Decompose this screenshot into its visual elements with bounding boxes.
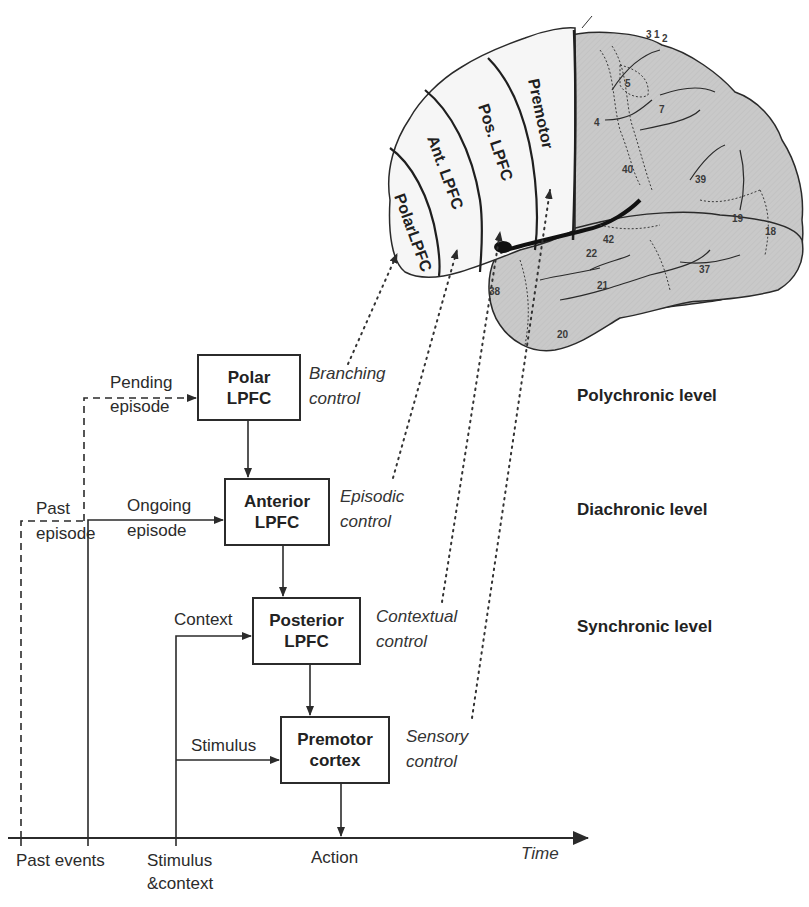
synchronic-level-label: Synchronic level — [577, 617, 712, 637]
diagram-graphics: PolarLPFC Ant. LPFC Pos. LPFC Premotor 3… — [0, 0, 809, 907]
ongoing-episode-line1: Ongoing — [127, 496, 191, 516]
posterior-lpfc-line2: LPFC — [284, 631, 328, 652]
cascade-model-figure: PolarLPFC Ant. LPFC Pos. LPFC Premotor 3… — [0, 0, 809, 907]
branching-control-line2: control — [309, 389, 386, 409]
area-3: 3 — [646, 29, 652, 40]
polar-lpfc-line2: LPFC — [227, 388, 271, 409]
ongoing-episode-line — [88, 520, 223, 838]
past-episode-label: Past episode — [36, 499, 96, 544]
area-1: 1 — [654, 29, 660, 40]
past-episode-line1: Past — [36, 499, 96, 519]
area-4: 4 — [594, 117, 600, 128]
anterior-lpfc-box: Anterior LPFC — [224, 478, 330, 546]
anterior-lpfc-line2: LPFC — [255, 512, 299, 533]
area-2: 2 — [662, 33, 668, 44]
polychronic-level-label: Polychronic level — [577, 386, 717, 406]
tick-label-stimulus-line2: &context — [147, 874, 213, 894]
contextual-control-line2: control — [376, 632, 457, 652]
context-label: Context — [174, 610, 233, 630]
episodic-to-anterior-line — [393, 250, 457, 478]
episodic-control-line2: control — [340, 512, 404, 532]
episodic-control-label: Episodic control — [340, 487, 404, 532]
dashed-connectors — [21, 398, 196, 838]
polar-lpfc-box: Polar LPFC — [197, 354, 301, 421]
posterior-lpfc-box: Posterior LPFC — [252, 597, 361, 665]
tick-label-stimulus-context: Stimulus &context — [147, 851, 213, 894]
brain-illustration: PolarLPFC Ant. LPFC Pos. LPFC Premotor 3… — [389, 16, 803, 351]
anterior-lpfc-line1: Anterior — [244, 491, 310, 512]
pending-episode-line1: Pending — [110, 373, 172, 393]
contextual-control-label: Contextual control — [376, 607, 457, 652]
past-episode-line2: episode — [36, 524, 96, 544]
branching-control-line1: Branching — [309, 364, 386, 384]
pending-episode-line2: episode — [110, 397, 172, 417]
area-42: 42 — [603, 234, 615, 245]
premotor-cortex-line2: cortex — [309, 750, 360, 771]
branching-to-polar-line — [348, 254, 397, 364]
area-18: 18 — [765, 226, 777, 237]
area-19: 19 — [732, 213, 744, 224]
area-40: 40 — [622, 164, 634, 175]
diachronic-level-label: Diachronic level — [577, 500, 707, 520]
area-20: 20 — [557, 329, 569, 340]
pending-episode-label: Pending episode — [110, 373, 172, 417]
time-axis-label: Time — [521, 844, 559, 864]
past-episode-dashed-line — [21, 521, 86, 838]
premotor-cortex-box: Premotor cortex — [280, 716, 390, 784]
branching-control-label: Branching control — [309, 364, 386, 409]
episodic-control-line1: Episodic — [340, 487, 404, 507]
contextual-control-line1: Contextual — [376, 607, 457, 627]
area-39: 39 — [695, 174, 707, 185]
time-axis-ticks — [21, 838, 176, 846]
tick-mark — [582, 16, 592, 28]
tick-label-past-events: Past events — [16, 851, 105, 871]
ongoing-episode-line2: episode — [127, 521, 191, 541]
area-7: 7 — [659, 104, 665, 115]
premotor-cortex-line1: Premotor — [297, 729, 373, 750]
polar-lpfc-line1: Polar — [228, 367, 271, 388]
sensory-control-label: Sensory control — [406, 727, 468, 772]
stimulus-label: Stimulus — [191, 736, 256, 756]
area-5: 5 — [625, 78, 631, 89]
area-21: 21 — [597, 280, 609, 291]
area-22: 22 — [586, 248, 598, 259]
contextual-to-posterior-line — [442, 232, 500, 602]
area-37: 37 — [699, 264, 711, 275]
sensory-control-line2: control — [406, 752, 468, 772]
sensory-control-line1: Sensory — [406, 727, 468, 747]
ongoing-episode-label: Ongoing episode — [127, 496, 191, 541]
tick-label-action: Action — [311, 848, 358, 868]
tick-label-stimulus-line1: Stimulus — [147, 851, 213, 871]
posterior-lpfc-line1: Posterior — [269, 610, 344, 631]
